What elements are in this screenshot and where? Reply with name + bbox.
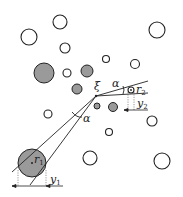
obstacle-circle [154,153,170,169]
alpha-bottom-label: α [83,112,91,125]
grey-circle [94,103,100,109]
diagram: ξ α α r2 r1 y2 y1 [0,0,183,197]
xi-label: ξ [94,80,101,93]
obstacle-circle [21,29,37,45]
source-center-dot [31,162,33,164]
obstacle-circle [131,60,140,69]
y2-label: y2 [136,97,148,111]
y1-label: y1 [49,173,61,187]
grey-circle [34,63,54,83]
obstacle-circle [60,43,70,53]
grey-circle [109,103,118,112]
obstacle-circle [147,116,157,126]
obstacle-circle [83,151,97,165]
obstacle-circle [106,129,113,136]
r2-label: r2 [136,83,146,97]
obstacle-circle [103,56,110,63]
obstacle-circle [149,22,165,38]
obstacle-circle [63,69,71,77]
ray-tangent-right [30,96,96,185]
alpha-top-label: α [112,77,120,90]
obstacle-circle [44,110,52,118]
vertex-dot [95,95,97,97]
target-center-dot [130,89,132,91]
grey-circle [72,84,82,94]
grey-circle [81,65,93,77]
obstacle-circle [53,15,67,29]
alpha-arc-top [123,86,124,94]
